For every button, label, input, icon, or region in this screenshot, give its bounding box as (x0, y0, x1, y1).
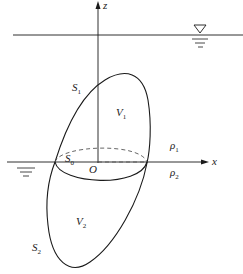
interface-level-marker-icon (17, 168, 35, 176)
density-rho1-label: ρ1 (169, 139, 179, 154)
body-outline (47, 74, 150, 268)
x-axis-label: x (211, 155, 217, 167)
surface-s0-label: S0 (65, 152, 75, 167)
surface-s2-label: S2 (32, 241, 42, 256)
section-front-solid (55, 162, 147, 180)
z-axis (96, 1, 101, 163)
volume-v1-label: V1 (116, 106, 127, 121)
origin-label: O (89, 163, 97, 175)
z-axis-label: z (102, 0, 108, 11)
volume-v2-label: V2 (76, 215, 87, 230)
surface-s1-label: S1 (72, 81, 82, 96)
floating-body-diagram: z x O S1 S0 S2 V1 V2 ρ1 ρ2 (0, 0, 243, 274)
density-rho2-label: ρ2 (169, 166, 179, 181)
free-surface-marker-icon (192, 25, 208, 47)
